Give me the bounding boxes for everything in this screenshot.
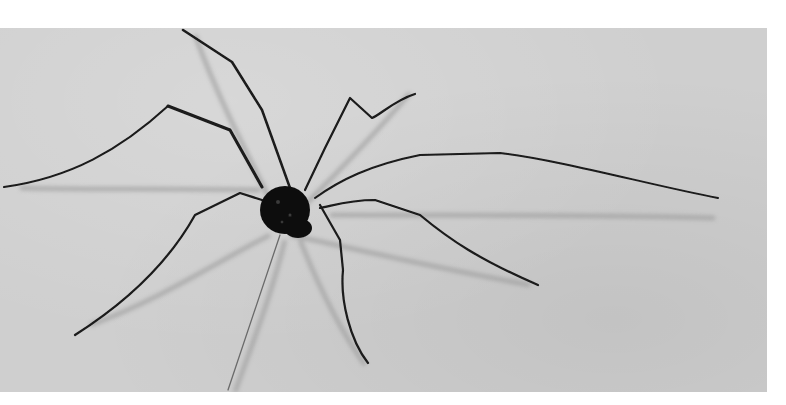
spider-body bbox=[260, 186, 312, 238]
legs bbox=[4, 30, 718, 390]
leg-shadows bbox=[20, 35, 715, 392]
harvestman-illustration bbox=[0, 28, 767, 392]
photograph bbox=[0, 28, 767, 392]
